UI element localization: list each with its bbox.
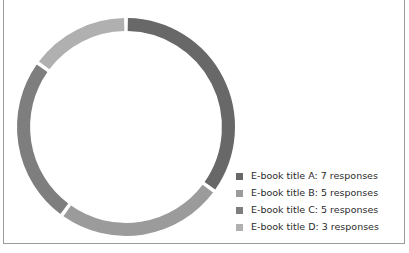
legend-label: E-book title B: 5 responses [251,188,378,198]
donut-svg [14,15,238,239]
legend-label: E-book title A: 7 responses [251,171,378,181]
donut-chart [14,15,238,239]
legend-item[interactable]: E-book title D: 3 responses [236,219,406,235]
donut-slice[interactable] [44,25,124,66]
legend-label: E-book title C: 5 responses [251,205,378,215]
donut-slice[interactable] [128,25,229,186]
donut-slice[interactable] [67,189,208,230]
chart-panel: E-book title A: 7 responsesE-book title … [3,0,405,244]
legend-swatch [236,190,243,197]
donut-slice-group [24,25,229,230]
legend-label: E-book title D: 3 responses [251,222,379,232]
legend-item[interactable]: E-book title B: 5 responses [236,185,406,201]
legend-item[interactable]: E-book title C: 5 responses [236,202,406,218]
legend-swatch [236,207,243,214]
legend-swatch [236,224,243,231]
legend-swatch [236,173,243,180]
donut-slice[interactable] [24,68,65,209]
legend-item[interactable]: E-book title A: 7 responses [236,168,406,184]
chart-legend: E-book title A: 7 responsesE-book title … [236,168,406,236]
